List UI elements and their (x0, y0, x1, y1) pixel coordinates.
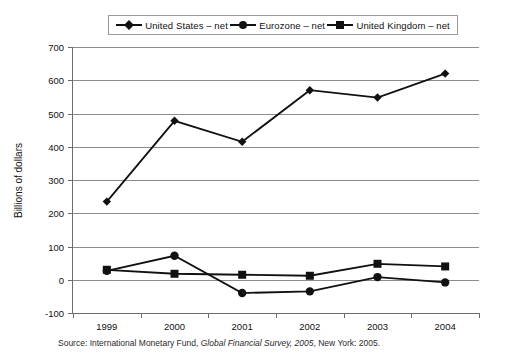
x-axis-tick (344, 313, 345, 318)
y-axis-tick-label: 0 (59, 274, 64, 285)
y-axis-tick-label: 200 (48, 208, 64, 219)
data-point-marker (441, 69, 449, 77)
source-suffix: , New York: 2005. (313, 338, 380, 348)
data-point-marker (373, 93, 381, 101)
x-axis-tick (411, 313, 412, 318)
legend-label-united-kingdom: United Kingdom – net (356, 20, 449, 31)
x-axis-tick (479, 313, 480, 318)
legend-item-united-kingdom: United Kingdom – net (327, 19, 449, 31)
data-point-marker (306, 287, 314, 295)
data-point-marker (171, 270, 179, 278)
legend-label-eurozone: Eurozone – net (259, 20, 325, 31)
x-axis-tick (141, 313, 142, 318)
data-point-marker (373, 273, 381, 281)
chart-legend: United States – net Eurozone – net Unite… (108, 15, 458, 35)
source-note: Source: International Monetary Fund, Glo… (58, 338, 380, 348)
source-prefix: Source: International Monetary Fund, (58, 338, 201, 348)
data-point-marker (441, 262, 449, 270)
data-point-marker (374, 260, 382, 268)
data-point-marker (238, 271, 246, 279)
diamond-marker-icon (116, 19, 142, 31)
series-line-0 (107, 74, 445, 202)
x-axis-tick-label: 2001 (232, 321, 253, 332)
y-axis-tick-label: 600 (48, 75, 64, 86)
y-axis-title-text: Billions of dollars (14, 142, 25, 217)
data-point-marker (238, 289, 246, 297)
x-axis-tick-label: 2004 (435, 321, 456, 332)
x-axis-tick (208, 313, 209, 318)
data-point-marker (103, 266, 111, 274)
y-axis-tick-label: 300 (48, 175, 64, 186)
x-axis-tick-label: 2000 (164, 321, 185, 332)
legend-item-united-states: United States – net (116, 19, 228, 31)
square-marker-icon (327, 19, 353, 31)
legend-label-united-states: United States – net (145, 20, 228, 31)
y-axis-title: Billions of dollars (12, 47, 26, 313)
data-point-marker (441, 278, 449, 286)
x-axis-tick-label: 2003 (367, 321, 388, 332)
y-axis-tick-label: 100 (48, 241, 64, 252)
legend-item-eurozone: Eurozone – net (230, 19, 325, 31)
y-axis-tick-label: 700 (48, 42, 64, 53)
x-axis-tick (73, 313, 74, 318)
chart-figure: United States – net Eurozone – net Unite… (0, 0, 528, 359)
y-axis-tick-label: 500 (48, 108, 64, 119)
x-axis-tick (276, 313, 277, 318)
x-axis-tick-label: 2002 (299, 321, 320, 332)
circle-marker-icon (230, 19, 256, 31)
source-title: Global Financial Survey, 2005 (201, 338, 314, 348)
data-point-marker (170, 252, 178, 260)
y-axis-tick-label: -100 (45, 308, 64, 319)
series-layer (73, 47, 479, 313)
x-axis-tick-label: 1999 (96, 321, 117, 332)
y-axis-tick-label: 400 (48, 141, 64, 152)
plot-area: 7006005004003002001000-10019992000200120… (72, 47, 479, 314)
data-point-marker (306, 272, 314, 280)
series-line-2 (107, 264, 445, 276)
